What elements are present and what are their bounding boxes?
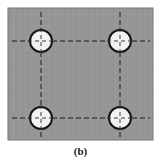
plate-diagram-svg: [0, 0, 161, 164]
hole-bottom-right: [109, 107, 131, 129]
figure-container: (b): [0, 0, 161, 164]
hole-top-right: [109, 30, 131, 52]
hole-top-left: [30, 30, 52, 52]
hole-bottom-left: [30, 107, 52, 129]
figure-caption: (b): [0, 145, 161, 158]
